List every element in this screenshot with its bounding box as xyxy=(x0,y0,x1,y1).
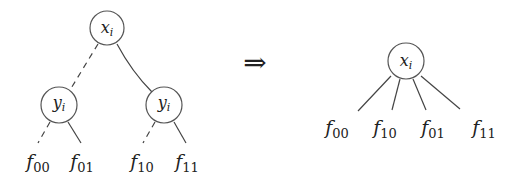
right-tree: xi f00 f10 f01 f11 xyxy=(323,43,496,141)
edge-right-y-to-f11-solid xyxy=(174,122,186,143)
edge-root-to-left-y-dashed xyxy=(70,44,98,90)
implies-arrow-icon: ⇒ xyxy=(243,46,266,79)
left-tree: xi yi yi f00 f01 f10 f11 xyxy=(24,11,199,175)
left-y-node: yi xyxy=(41,87,77,123)
leaf-f10: f10 xyxy=(371,116,397,141)
edge-root-to-f11 xyxy=(421,76,460,109)
edge-root-to-f10 xyxy=(392,79,400,110)
leaf-f00: f00 xyxy=(24,150,50,175)
right-root-node: xi xyxy=(388,43,424,79)
leaf-f11: f11 xyxy=(470,116,496,141)
leaf-f01: f01 xyxy=(419,116,445,141)
edge-root-to-f00 xyxy=(358,76,391,111)
edge-root-to-f01 xyxy=(413,79,426,110)
leaf-f10: f10 xyxy=(128,150,154,175)
edge-right-y-to-f10-dashed xyxy=(143,122,155,143)
right-y-node: yi xyxy=(146,87,182,123)
leaf-f11: f11 xyxy=(173,150,199,175)
edge-root-to-right-y-solid xyxy=(117,44,152,92)
edge-left-y-to-f00-dashed xyxy=(38,122,50,143)
leaf-f01: f01 xyxy=(68,150,94,175)
left-root-node: xi xyxy=(90,11,124,45)
leaf-f00: f00 xyxy=(323,116,349,141)
diagram-canvas: xi yi yi f00 f01 f10 f11 xyxy=(0,0,519,183)
edge-left-y-to-f01-solid xyxy=(68,122,81,143)
